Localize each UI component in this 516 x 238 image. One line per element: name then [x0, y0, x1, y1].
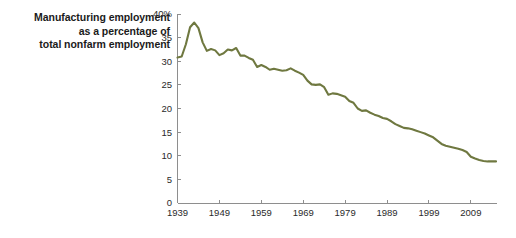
y-axis-tick-marks [178, 14, 182, 203]
y-tick-label: 15 [161, 127, 172, 138]
chart-figure: Manufacturing employment as a percentage… [0, 0, 516, 238]
x-tick-label: 1959 [251, 207, 272, 218]
x-tick-label: 2009 [460, 207, 481, 218]
x-axis-tick-marks [219, 200, 470, 204]
x-tick-label: 1939 [167, 207, 188, 218]
x-tick-label: 1949 [209, 207, 230, 218]
line-chart-plot: 0510152025303540% 1939194919591969197919… [0, 0, 516, 238]
x-tick-label: 1979 [335, 207, 356, 218]
x-tick-label: 1999 [418, 207, 439, 218]
y-tick-label: 10 [161, 150, 172, 161]
y-tick-label: 20 [161, 103, 172, 114]
y-tick-label: 40% [153, 8, 173, 19]
data-series-line [178, 23, 497, 162]
y-tick-label: 25 [161, 79, 172, 90]
x-tick-label: 1969 [293, 207, 314, 218]
x-tick-label: 1989 [376, 207, 397, 218]
y-tick-label: 5 [167, 174, 172, 185]
y-axis-tick-labels: 0510152025303540% [153, 8, 173, 208]
y-tick-label: 35 [161, 32, 172, 43]
y-tick-label: 30 [161, 56, 172, 67]
x-axis-tick-labels: 19391949195919691979198919992009 [167, 207, 481, 218]
